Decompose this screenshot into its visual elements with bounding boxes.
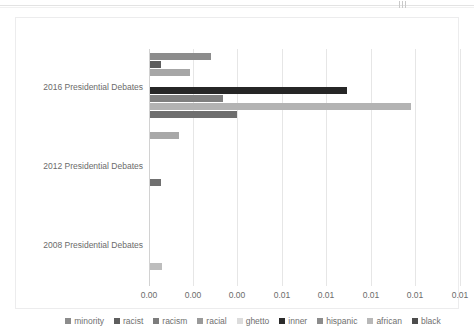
plot-area xyxy=(149,49,460,286)
legend-item-black[interactable]: black xyxy=(412,316,441,326)
legend-label-inner: inner xyxy=(288,316,307,326)
x-tick-label-6: 0.01 xyxy=(407,290,424,300)
bar-2008-black xyxy=(150,263,162,270)
legend-item-inner[interactable]: inner xyxy=(279,316,307,326)
chart-legend: minorityracistracismracialghettoinnerhis… xyxy=(31,314,474,328)
y-axis-label-2: 2008 Presidential Debates xyxy=(43,240,143,250)
legend-item-racist[interactable]: racist xyxy=(114,316,143,326)
x-tick-label-7: 0.01 xyxy=(452,290,469,300)
x-tick-label-1: 0.00 xyxy=(185,290,202,300)
bar-2016-racist xyxy=(150,61,161,68)
legend-item-african[interactable]: african xyxy=(367,316,402,326)
legend-swatch-icon-racial xyxy=(197,318,203,324)
bar-2012-black xyxy=(150,179,161,186)
chart-page: 2016 Presidential Debates2012 Presidenti… xyxy=(0,0,474,335)
x-axis-tick-labels: 0.000.000.000.010.010.010.010.01 xyxy=(149,290,460,304)
legend-item-ghetto[interactable]: ghetto xyxy=(237,316,270,326)
legend-swatch-icon-racist xyxy=(114,318,120,324)
gridline-7 xyxy=(460,49,461,286)
gridline-5 xyxy=(371,49,372,286)
legend-item-minority[interactable]: minority xyxy=(65,316,104,326)
legend-label-racial: racial xyxy=(206,316,226,326)
gridline-4 xyxy=(326,49,327,286)
legend-swatch-icon-black xyxy=(412,318,418,324)
x-tick-label-0: 0.00 xyxy=(141,290,158,300)
legend-swatch-icon-racism xyxy=(153,318,159,324)
page-top-tick-marks xyxy=(399,1,408,8)
bar-2016-black xyxy=(150,111,237,118)
x-tick-label-2: 0.00 xyxy=(229,290,246,300)
x-tick-label-4: 0.01 xyxy=(318,290,335,300)
bar-2016-hispanic xyxy=(150,95,223,102)
y-axis-line xyxy=(149,49,150,286)
y-axis-labels: 2016 Presidential Debates2012 Presidenti… xyxy=(16,49,143,286)
gridline-3 xyxy=(282,49,283,286)
x-tick-label-5: 0.01 xyxy=(363,290,380,300)
y-axis-label-0: 2016 Presidential Debates xyxy=(43,82,143,92)
legend-label-minority: minority xyxy=(74,316,104,326)
gridline-1 xyxy=(193,49,194,286)
legend-label-black: black xyxy=(421,316,441,326)
y-axis-label-1: 2012 Presidential Debates xyxy=(43,161,143,171)
chart-frame: 2016 Presidential Debates2012 Presidenti… xyxy=(15,17,459,309)
legend-item-racial[interactable]: racial xyxy=(197,316,226,326)
bar-2016-ghetto xyxy=(150,132,179,139)
legend-label-racism: racism xyxy=(162,316,187,326)
gridline-6 xyxy=(415,49,416,286)
legend-swatch-icon-minority xyxy=(65,318,71,324)
legend-swatch-icon-ghetto xyxy=(237,318,243,324)
bar-2016-african xyxy=(150,103,411,110)
x-tick-label-3: 0.01 xyxy=(274,290,291,300)
legend-swatch-icon-hispanic xyxy=(317,318,323,324)
legend-item-hispanic[interactable]: hispanic xyxy=(317,316,357,326)
legend-item-racism[interactable]: racism xyxy=(153,316,187,326)
legend-label-african: african xyxy=(376,316,402,326)
legend-label-ghetto: ghetto xyxy=(246,316,270,326)
bar-2016-inner xyxy=(150,87,347,94)
legend-swatch-icon-african xyxy=(367,318,373,324)
bar-2016-minority xyxy=(150,53,211,60)
legend-label-hispanic: hispanic xyxy=(326,316,357,326)
bar-2016-racism xyxy=(150,69,190,76)
legend-label-racist: racist xyxy=(123,316,143,326)
gridline-2 xyxy=(237,49,238,286)
legend-swatch-icon-inner xyxy=(279,318,285,324)
